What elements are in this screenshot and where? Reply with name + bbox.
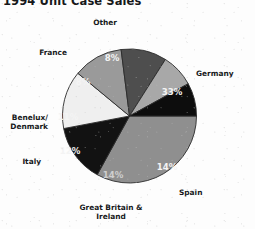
chart-title: 1994 Unit Case Sales [3, 0, 141, 7]
slice-label-great-britain-ireland: Great Britain & Ireland [0, 203, 239, 222]
slice-label-spain: Spain [179, 188, 202, 197]
slice-value-great-britain-ireland: 14% [103, 170, 124, 180]
chart-page: 1994 Unit Case Sales Germany33%Spain14%G… [0, 0, 255, 229]
slice-label-italy: Italy [22, 157, 41, 166]
title-clip-region: 1994 Unit Case Sales [0, 0, 255, 7]
slice-label-germany: Germany [196, 69, 234, 78]
slice-value-spain: 14% [157, 162, 178, 172]
slice-label-benelux-denmark: Benelux/ Denmark [10, 113, 48, 132]
slice-value-italy: 12% [60, 146, 81, 156]
slice-value-germany: 33% [162, 87, 183, 97]
slice-label-other: Other [0, 18, 233, 27]
slice-label-france: France [39, 48, 67, 57]
slice-value-other: 8% [105, 53, 120, 63]
slice-value-benelux-denmark: 11% [58, 112, 79, 122]
slice-value-france: 8% [76, 77, 91, 87]
